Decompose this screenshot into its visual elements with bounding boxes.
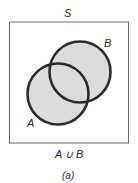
operation-label: A ∪ B: [55, 149, 83, 160]
figure-caption: (a): [62, 170, 74, 181]
set-b-label: B: [104, 38, 111, 49]
set-a-label: A: [27, 118, 34, 129]
